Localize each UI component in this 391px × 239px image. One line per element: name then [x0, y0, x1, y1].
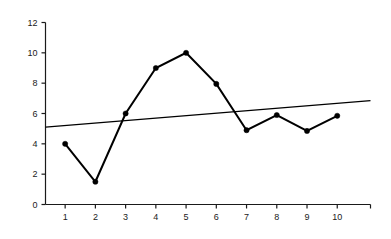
- y-axis-tick-label: 12: [27, 18, 37, 28]
- x-axis-tick-label: 6: [214, 212, 219, 222]
- chart-container: 024681012 12345678910: [0, 0, 391, 239]
- x-axis-tick-label: 1: [63, 212, 68, 222]
- data-point-marker: [93, 179, 98, 184]
- data-point-marker: [63, 141, 68, 146]
- y-axis-tick-label: 4: [32, 139, 37, 149]
- y-axis-tick-label: 0: [32, 200, 37, 210]
- x-axis-tick-label: 5: [184, 212, 189, 222]
- x-axis-tick-label: 8: [274, 212, 279, 222]
- data-point-marker: [335, 113, 340, 118]
- line-chart: 024681012 12345678910: [0, 0, 391, 239]
- x-axis-tick-label: 7: [244, 212, 249, 222]
- x-axis-tick-label: 4: [153, 212, 158, 222]
- data-point-marker: [183, 50, 188, 55]
- data-point-marker: [274, 112, 279, 117]
- data-point-marker: [214, 81, 219, 86]
- y-axis-tick-label: 6: [32, 109, 37, 119]
- data-point-marker: [304, 128, 309, 133]
- y-axis-tick-label: 10: [27, 48, 37, 58]
- data-point-marker: [153, 65, 158, 70]
- x-axis-tick-label: 2: [93, 212, 98, 222]
- chart-background: [0, 0, 391, 239]
- y-axis-tick-label: 8: [32, 78, 37, 88]
- data-point-marker: [244, 128, 249, 133]
- x-axis-tick-label: 9: [305, 212, 310, 222]
- data-point-marker: [123, 111, 128, 116]
- y-axis-tick-label: 2: [32, 169, 37, 179]
- x-axis-tick-label: 10: [332, 212, 342, 222]
- x-axis-tick-label: 3: [123, 212, 128, 222]
